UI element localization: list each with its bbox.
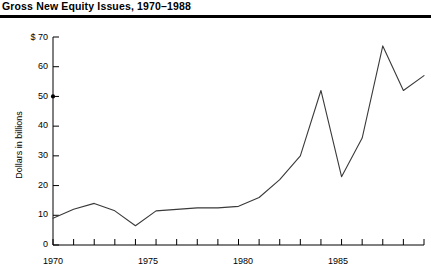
y-axis [53,37,59,245]
axis-marker-dot [51,94,55,98]
x-axis [53,239,424,245]
plot-area [0,0,431,278]
chart-figure: Gross New Equity Issues, 1970–1988 Dolla… [0,0,431,278]
data-series-line [53,46,424,226]
